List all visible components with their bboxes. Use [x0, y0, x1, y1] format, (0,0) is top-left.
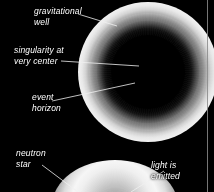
black-hole-diagram: gravitational well singularity at very c…: [0, 0, 214, 192]
black-hole-graphic: [78, 2, 214, 142]
right-edge-rule: [207, 0, 208, 192]
neutron-star-streaks: [52, 160, 178, 192]
label-singularity: singularity at very center: [14, 45, 64, 66]
neutron-star-graphic: [52, 160, 178, 192]
label-gravitational-well: gravitational well: [34, 6, 82, 27]
label-neutron-star: neutron star: [16, 148, 46, 169]
singularity-core: [111, 35, 185, 109]
label-event-horizon: event horizon: [32, 92, 61, 113]
